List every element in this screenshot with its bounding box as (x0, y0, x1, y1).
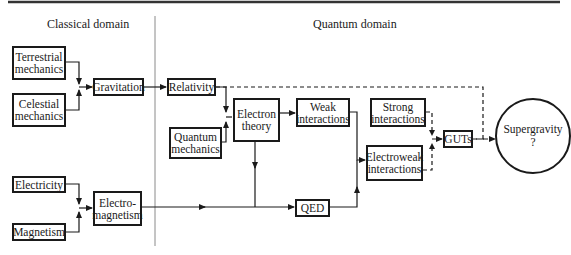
node-relativity: Relativity (167, 78, 216, 96)
node-qed: QED (295, 199, 330, 217)
node-strong-interactions: Strong interactions (370, 98, 426, 127)
node-weak-interactions: Weak interactions (296, 98, 350, 127)
node-electricity: Electricity (12, 176, 66, 193)
node-guts: GUTs (443, 130, 473, 148)
quantum-domain-label: Quantum domain (313, 17, 397, 32)
node-electroweak-interactions: Electroweak interactions (366, 145, 423, 181)
node-supergravity: Supergravity ? (495, 98, 571, 174)
node-electron-theory: Electron theory (233, 98, 280, 142)
node-terrestrial-mechanics: Terrestrial mechanics (12, 46, 66, 80)
node-quantum-mechanics: Quantum mechanics (169, 127, 222, 159)
node-celestial-mechanics: Celestial mechanics (12, 93, 66, 127)
node-magnetism: Magnetism (12, 223, 66, 241)
node-electromagnetism: Electro- magnetism (93, 191, 142, 226)
node-gravitation: Gravitation (93, 78, 144, 96)
classical-domain-label: Classical domain (47, 17, 129, 32)
